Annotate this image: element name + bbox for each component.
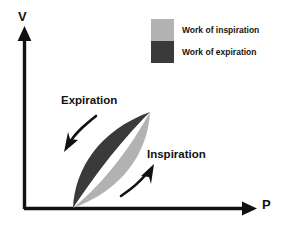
pv-loop-figure: V P Work of inspiration Work of expirati… <box>0 0 281 226</box>
annotation-inspiration: Inspiration <box>147 149 206 161</box>
expiration-arrow-curve <box>70 116 96 142</box>
inspiration-arrowhead <box>141 164 154 184</box>
inspiration-arrow-curve <box>121 173 147 196</box>
pv-loop-group <box>0 0 281 226</box>
annotation-expiration: Expiration <box>61 95 117 107</box>
